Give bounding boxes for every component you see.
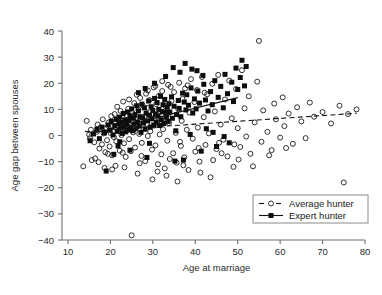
data-point-open-circle [127,137,132,142]
data-point-open-circle [155,162,160,167]
y-tick-label: −10 [38,156,54,167]
data-point-filled-square [177,106,182,111]
data-point-open-circle [157,132,162,137]
data-point-open-circle [278,135,283,140]
y-tick-label: 0 [49,130,54,141]
data-point-open-circle [236,157,241,162]
data-point-open-circle [295,105,300,110]
data-point-open-circle [329,121,334,126]
data-point-open-circle [320,109,325,114]
data-point-filled-square [194,68,199,73]
data-point-open-circle [171,151,176,156]
data-point-filled-square [222,72,227,77]
data-point-filled-square [140,115,145,120]
data-point-open-circle [129,233,134,238]
data-point-open-circle [139,140,144,145]
data-point-open-circle [181,163,186,168]
y-tick-label: 30 [43,52,54,63]
data-point-open-circle [208,175,213,180]
data-point-open-circle [225,154,230,159]
data-point-open-circle [341,180,346,185]
data-point-filled-square [195,89,200,94]
data-point-filled-square [197,101,202,106]
data-point-filled-square [208,89,213,94]
y-tick-label: −20 [38,182,54,193]
x-tick-label: 30 [148,246,159,257]
data-point-filled-square [200,73,205,78]
data-point-open-circle [107,144,112,149]
data-point-open-circle [280,95,285,100]
data-point-open-circle [238,144,243,149]
x-tick-label: 80 [360,246,371,257]
data-point-open-circle [246,94,251,99]
data-point-open-circle [81,164,86,169]
data-point-filled-square [188,132,193,137]
data-point-open-circle [272,101,277,106]
data-point-filled-square [142,105,147,110]
x-tick-label: 60 [275,246,286,257]
data-point-open-circle [164,173,169,178]
data-point-open-circle [127,97,132,102]
data-point-open-circle [269,148,274,153]
data-point-filled-square [211,130,216,135]
data-point-filled-square [235,87,240,92]
data-point-filled-square [111,152,116,157]
data-point-filled-square [189,67,194,72]
data-point-filled-square [206,108,211,113]
x-tick-label: 10 [63,246,74,257]
data-point-open-circle [155,169,160,174]
data-point-open-circle [135,171,140,176]
data-point-filled-square [239,58,244,63]
data-point-open-circle [189,77,194,82]
data-point-open-circle [248,151,253,156]
data-point-filled-square [178,114,183,119]
data-point-filled-square [192,96,197,101]
data-point-filled-square [221,105,226,110]
x-axis-title: Age at marriage [183,262,251,273]
data-point-filled-square [136,90,141,95]
scatter-plot-figure: 1020304050607080Age at marriage−40−30−20… [0,0,382,295]
series-expert-hunter [88,58,249,174]
data-point-filled-square [184,92,189,97]
data-point-open-circle [186,167,191,172]
data-point-filled-square [178,70,183,75]
data-point-filled-square [143,86,148,91]
data-point-open-circle [235,126,240,131]
data-point-open-circle [139,153,144,158]
data-point-open-circle [290,141,295,146]
data-point-filled-square [176,98,181,103]
data-point-open-circle [198,170,203,175]
data-point-open-circle [231,164,236,169]
data-point-open-circle [150,177,155,182]
y-tick-label: 10 [43,104,54,115]
data-point-open-circle [84,118,89,123]
data-point-filled-square [234,66,239,71]
data-point-open-circle [354,107,359,112]
y-tick-label: −30 [38,208,54,219]
data-point-filled-square [172,159,177,164]
y-tick-label: 40 [43,26,54,37]
y-axis-title: Age gap between spouses [9,79,20,191]
data-point-open-circle [177,80,182,85]
data-point-filled-square [152,81,157,86]
data-point-open-circle [286,111,291,116]
data-point-filled-square [136,108,141,113]
data-point-open-circle [219,151,224,156]
data-point-open-circle [261,108,266,113]
data-point-filled-square [231,99,236,104]
data-point-open-circle [122,165,127,170]
legend-marker-filled-square [269,213,274,218]
data-point-filled-square [238,75,243,80]
data-point-filled-square [183,61,188,66]
data-point-filled-square [146,99,151,104]
x-tick-label: 20 [105,246,116,257]
data-point-open-circle [267,153,272,158]
data-point-open-circle [195,125,200,130]
data-point-open-circle [99,142,104,147]
data-point-open-circle [184,127,189,132]
data-point-filled-square [227,140,232,145]
data-point-open-circle [203,142,208,147]
data-point-filled-square [225,91,230,96]
data-point-filled-square [144,155,149,160]
data-point-open-circle [244,134,249,139]
